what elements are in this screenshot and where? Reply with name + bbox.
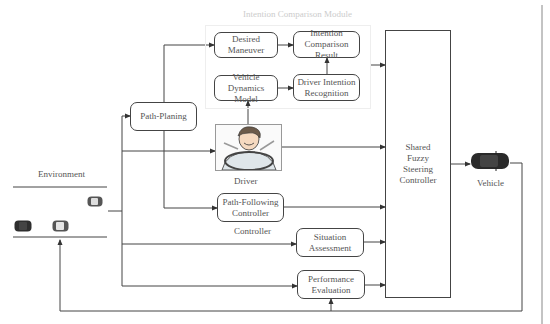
shared-controller-label: Shared Fuzzy Steering Controller xyxy=(396,142,440,186)
shared-fuzzy-steering-controller-box: Shared Fuzzy Steering Controller xyxy=(385,30,451,298)
environment-car-icon xyxy=(52,218,69,236)
situation-assessment-box: Situation Assessment xyxy=(296,228,364,257)
driver-intention-recognition-box: Driver Intention Recognition xyxy=(293,74,360,101)
controller-label: Controller xyxy=(234,226,271,236)
driver-label: Driver xyxy=(234,176,258,186)
vehicle-dynamics-model-box: Vehicle Dynamics Model xyxy=(214,75,278,101)
desired-maneuver-box: Desired Maneuver xyxy=(214,32,278,58)
environment-car-icon xyxy=(14,218,32,236)
intention-comparison-result-box: Intention Comparison Result xyxy=(293,31,360,58)
driver-icon xyxy=(215,124,282,171)
vehicle-car-icon xyxy=(470,151,510,175)
module-title: Intention Comparison Module xyxy=(243,9,352,19)
performance-evaluation-box: Performance Evaluation xyxy=(297,270,365,299)
vehicle-label: Vehicle xyxy=(477,178,504,188)
environment-label: Environment xyxy=(38,169,85,179)
path-planing-box: Path-Planing xyxy=(130,102,197,131)
path-following-controller-box: Path-Following Controller xyxy=(217,193,284,222)
environment-car-icon xyxy=(87,193,103,211)
